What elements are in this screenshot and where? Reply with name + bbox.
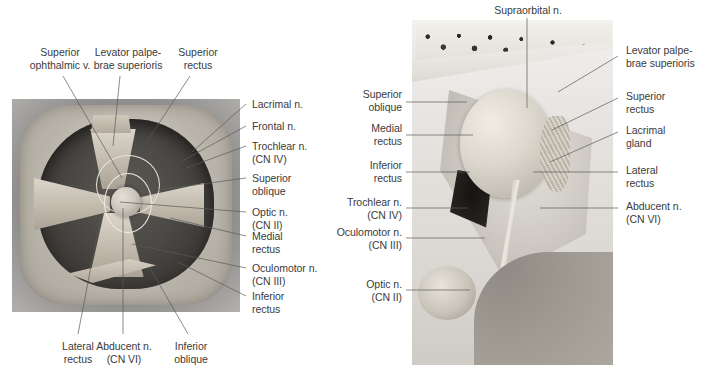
label-abducent-nerve-right: Abducent n. (CN VI)	[626, 200, 682, 225]
label-superior-oblique-right: Superior oblique	[336, 88, 402, 113]
anterior-orbit-illustration	[12, 99, 240, 312]
label-lateral-rectus-right: Lateral rectus	[626, 164, 658, 189]
label-abducent-nerve-left: Abducent n. (CN VI)	[84, 340, 164, 365]
label-inferior-rectus-left: Inferior rectus	[252, 290, 284, 315]
label-frontal-nerve: Frontal n.	[252, 120, 296, 133]
label-superior-rectus-right: Superior rectus	[626, 90, 665, 115]
label-medial-rectus-right: Medial rectus	[336, 122, 402, 147]
label-oculomotor-nerve-left: Oculomotor n. (CN III)	[252, 262, 317, 287]
lateral-orbit-illustration	[412, 20, 613, 365]
label-lacrimal-nerve: Lacrimal n.	[252, 98, 303, 111]
label-inferior-rectus-right: Inferior rectus	[336, 159, 402, 184]
label-oculomotor-nerve-right: Oculomotor n. (CN III)	[312, 226, 402, 251]
label-optic-nerve-right: Optic n. (CN II)	[336, 278, 402, 303]
label-lacrimal-gland: Lacrimal gland	[626, 124, 665, 149]
figure-page: Superior ophthalmic v. Levator palpe- br…	[0, 0, 710, 373]
optic-nerve-stump	[111, 187, 141, 217]
label-superior-rectus-left: Superior rectus	[168, 46, 228, 71]
label-levator-palpebrae-superioris-left: Levator palpe- brae superioris	[80, 46, 176, 71]
label-supraorbital-nerve: Supraorbital n.	[468, 4, 588, 17]
label-levator-palpebrae-superioris-right: Levator palpe- brae superioris	[626, 44, 695, 69]
label-optic-nerve-left: Optic n. (CN II)	[252, 206, 288, 231]
label-trochlear-nerve-right: Trochlear n. (CN IV)	[324, 196, 402, 221]
label-superior-oblique-left: Superior oblique	[252, 172, 291, 197]
label-trochlear-nerve-left: Trochlear n. (CN IV)	[252, 140, 307, 165]
label-inferior-oblique: Inferior oblique	[160, 340, 222, 365]
label-medial-rectus-left: Medial rectus	[252, 230, 283, 255]
lacrimal-gland-structure	[540, 116, 570, 192]
levator-palpebrae-muscle	[91, 115, 131, 133]
nasal-structure	[418, 266, 476, 320]
